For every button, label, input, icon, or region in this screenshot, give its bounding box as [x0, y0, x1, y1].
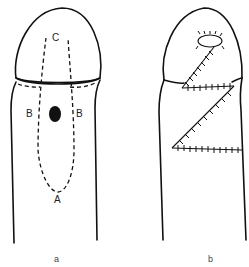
z-plasty-suture-line — [172, 31, 242, 153]
figure-diagram: C B B A a — [0, 0, 249, 267]
panel-a-caption: a — [54, 254, 59, 264]
panel-a: C B B A a — [11, 8, 101, 264]
panel-a-label-c: C — [52, 32, 59, 43]
panel-a-label-b-left: B — [26, 108, 33, 119]
panel-a-shaft-left — [11, 82, 16, 243]
panel-b-corona — [164, 78, 242, 83]
panel-b: b — [159, 8, 246, 264]
panel-b-glans-outline — [163, 8, 242, 80]
panel-b-shaft-left — [159, 80, 164, 240]
panel-a-label-b-right: B — [76, 108, 83, 119]
panel-b-caption: b — [208, 254, 213, 264]
panel-a-meatus-dot — [49, 106, 61, 122]
panel-a-label-a: A — [54, 194, 61, 205]
panel-b-shaft-right — [240, 78, 246, 240]
panel-a-glans-outline — [15, 8, 100, 83]
panel-a-shaft-right — [95, 80, 100, 240]
